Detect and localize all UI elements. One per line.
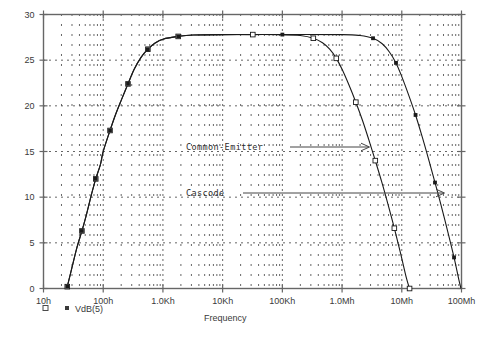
marker-open-square: [392, 226, 397, 231]
marker-open-square: [334, 56, 339, 61]
x-tick-label: 10h: [36, 296, 51, 306]
frequency-response-chart: 051015202530 10h100h1.0Kh10Kh100Kh1.0Mh1…: [0, 0, 482, 339]
x-tick-label: 10Kh: [212, 296, 233, 306]
x-tick-label: 10Mh: [391, 296, 414, 306]
data-point-markers: [65, 32, 456, 291]
marker-filled-square: [80, 229, 84, 233]
legend: VdB(5): [43, 304, 103, 314]
x-axis-title: Frequency: [204, 313, 247, 323]
annotation-arrow-common-emitter: [290, 143, 370, 151]
marker-filled-square: [414, 113, 418, 117]
marker-filled-square: [94, 177, 98, 181]
curve-annotations: Common-Emitter Cascode: [186, 142, 445, 198]
marker-filled-square: [65, 285, 69, 289]
x-tick-label: 1.0Mh: [330, 296, 355, 306]
x-tick-label: 100Kh: [269, 296, 295, 306]
y-tick-label: 0: [29, 284, 34, 294]
annotation-label-common-emitter: Common-Emitter: [186, 142, 263, 152]
y-tick-label: 30: [24, 10, 34, 20]
y-tick-label: 20: [24, 101, 34, 111]
marker-filled-square: [371, 36, 375, 40]
x-tick-label: 1.0Kh: [151, 296, 175, 306]
marker-filled-square: [146, 47, 150, 51]
marker-open-square: [251, 32, 256, 37]
marker-open-square: [373, 158, 378, 163]
marker-filled-square: [108, 129, 112, 133]
marker-filled-square: [176, 35, 180, 39]
legend-marker-filled-square: [65, 306, 69, 310]
marker-open-square: [311, 36, 316, 41]
x-tick-label: 100Mh: [448, 296, 476, 306]
marker-filled-square: [394, 61, 398, 65]
legend-label-text: VdB(5): [75, 304, 103, 314]
marker-open-square: [354, 100, 359, 105]
marker-filled-square: [452, 256, 456, 260]
y-tick-label: 5: [29, 238, 34, 248]
y-tick-label: 25: [24, 55, 34, 65]
bode-plot-figure: 051015202530 10h100h1.0Kh10Kh100Kh1.0Mh1…: [0, 0, 482, 339]
annotation-label-cascode: Cascode: [186, 188, 225, 198]
marker-filled-square: [280, 33, 284, 37]
marker-filled-square: [433, 181, 437, 185]
legend-marker-open-square: [43, 306, 48, 311]
y-tick-label: 10: [24, 192, 34, 202]
curve-common-emitter: [67, 35, 409, 289]
marker-filled-square: [126, 82, 130, 86]
marker-open-square: [407, 286, 412, 291]
y-axis-tick-labels: 051015202530: [24, 10, 34, 294]
y-tick-label: 15: [24, 147, 34, 157]
